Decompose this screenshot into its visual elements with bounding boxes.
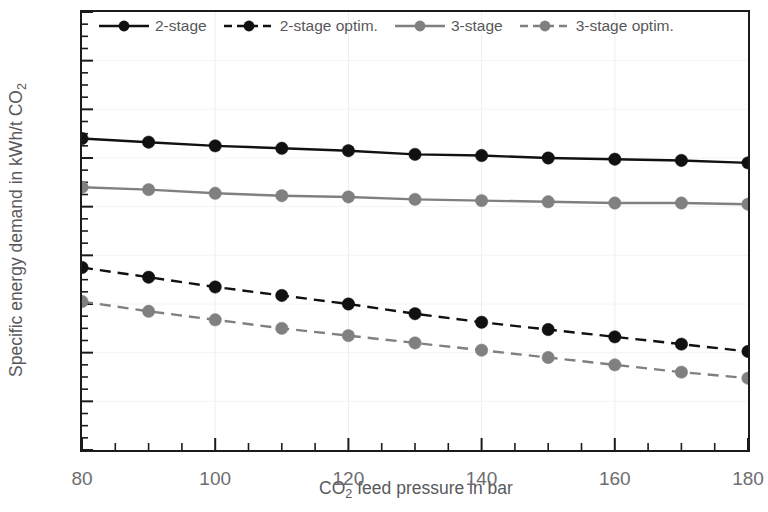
legend-item-2[interactable]: 2-stage optim. [223,18,378,34]
data-point [742,372,748,384]
data-point [209,140,221,152]
plot-area: 246810121416182080100120140160180 2-stag… [80,10,750,452]
legend-item-3[interactable]: 3-stage [394,18,503,34]
data-point [209,281,221,293]
data-point [142,183,154,195]
data-point [542,196,554,208]
y-axis-title-subscript: 2 [14,83,28,90]
data-point [276,190,288,202]
data-point [142,136,154,148]
data-point [742,157,748,169]
data-point [142,271,154,283]
data-point [609,331,621,343]
data-point [475,316,487,328]
y-axis-title-text: Specific energy demand in kWh/t CO2 [6,83,29,377]
data-point [542,351,554,363]
data-point [342,191,354,203]
data-point [342,145,354,157]
y-axis-title: Specific energy demand in kWh/t CO2 [0,0,34,460]
legend-label: 2-stage [155,18,207,34]
chart-canvas [82,12,748,450]
x-tick-label: 180 [713,468,768,490]
data-point [342,298,354,310]
x-tick-label: 160 [580,468,650,490]
data-point [675,366,687,378]
data-point [742,345,748,357]
legend-label: 3-stage [451,18,503,34]
legend-item-4[interactable]: 3-stage optim. [519,18,674,34]
data-point [475,149,487,161]
data-point [209,187,221,199]
data-point [409,308,421,320]
data-point [409,148,421,160]
legend-label: 2-stage optim. [280,18,378,34]
data-point [542,152,554,164]
data-point [609,153,621,165]
data-point [142,305,154,317]
data-point [609,197,621,209]
data-point [475,194,487,206]
data-point [342,329,354,341]
x-tick-label: 140 [447,468,517,490]
legend-swatch-icon [519,19,571,33]
legend-label: 3-stage optim. [576,18,674,34]
data-point [409,337,421,349]
data-point [276,142,288,154]
data-point [209,314,221,326]
data-point [475,344,487,356]
data-point [609,359,621,371]
x-tick-label: 100 [180,468,250,490]
legend-swatch-icon [223,19,275,33]
chart-legend: 2-stage2-stage optim.3-stage3-stage opti… [98,18,674,34]
data-point [276,322,288,334]
data-point [82,261,88,273]
data-point [675,338,687,350]
data-point [409,193,421,205]
legend-swatch-icon [98,19,150,33]
x-tick-label: 120 [313,468,383,490]
data-point [675,154,687,166]
data-point [82,295,88,307]
x-tick-label: 80 [47,468,117,490]
legend-item-1[interactable]: 2-stage [98,18,207,34]
data-point [276,289,288,301]
legend-swatch-icon [394,19,446,33]
data-point [542,323,554,335]
data-point [675,197,687,209]
data-point [742,198,748,210]
